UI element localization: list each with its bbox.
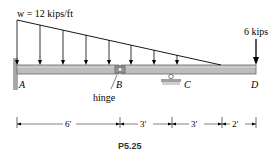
point-d-label: D bbox=[250, 79, 259, 90]
dimension-ab: 6′ bbox=[65, 119, 72, 129]
dimension-line bbox=[17, 117, 256, 128]
distributed-load bbox=[15, 20, 221, 65]
hinge-icon bbox=[115, 66, 125, 73]
point-a-label: A bbox=[18, 79, 26, 90]
point-load-label: 6 kips bbox=[244, 26, 268, 37]
figure-caption: P5.25 bbox=[118, 141, 142, 151]
point-load-arrow-icon bbox=[253, 39, 259, 65]
beam-diagram: w = 12 kips/ft 6 kips A B C D hinge 6′ 3… bbox=[0, 0, 280, 160]
dimension-load-end-d: 2′ bbox=[232, 119, 239, 129]
roller-support-icon bbox=[161, 74, 181, 85]
point-c-label: C bbox=[184, 79, 191, 90]
dimension-bc: 3′ bbox=[140, 119, 147, 129]
hinge-label: hinge bbox=[93, 92, 116, 103]
beam bbox=[17, 65, 256, 74]
point-b-label: B bbox=[116, 79, 122, 90]
dimension-c-load-end: 3′ bbox=[191, 119, 198, 129]
distributed-load-label: w = 12 kips/ft bbox=[17, 8, 73, 19]
